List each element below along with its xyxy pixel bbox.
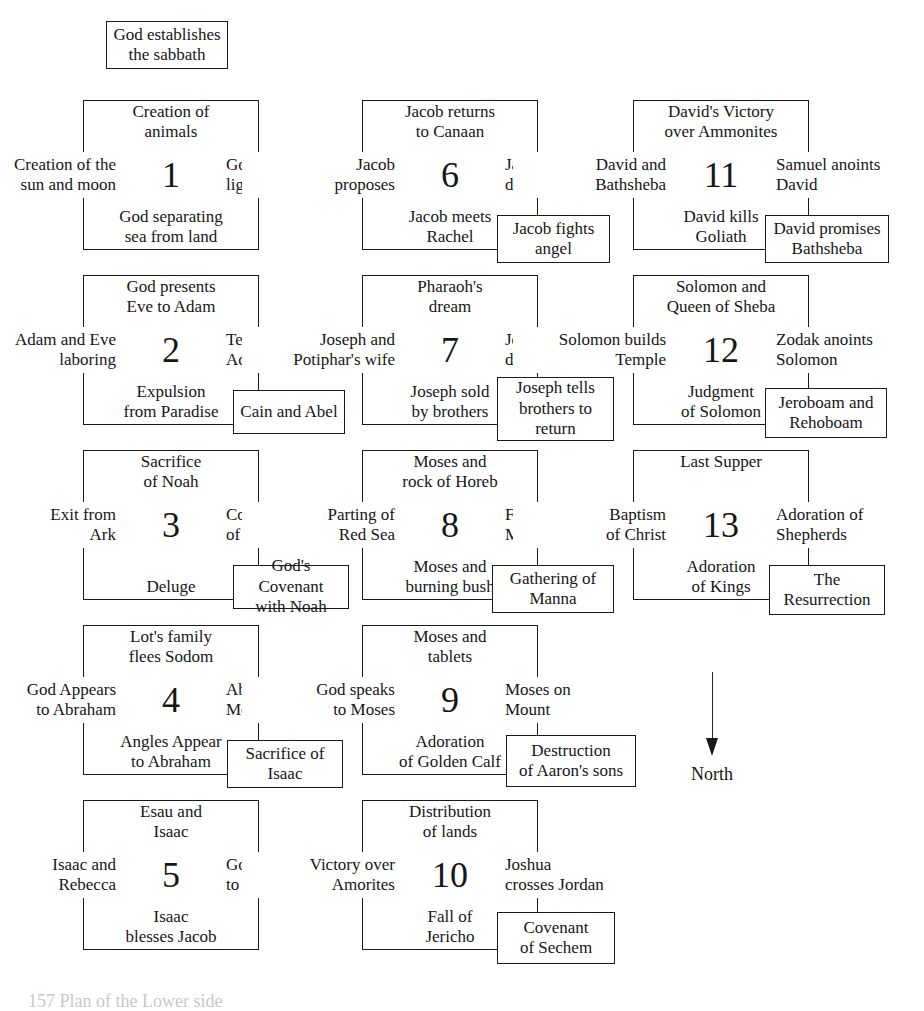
north-label: North xyxy=(691,764,733,785)
panel-border-top xyxy=(362,275,538,276)
panel-5[interactable]: Esau andIsaacIsaacblesses JacobIsaac and… xyxy=(83,800,259,950)
panel-border-r-upper xyxy=(537,100,538,152)
panel-11-east-label: Samuel anointsDavid xyxy=(773,153,924,197)
panel-3-subbox[interactable]: God's Covenantwith Noah xyxy=(233,565,349,609)
panel-border-r-upper xyxy=(808,275,809,327)
panel-13-east-label: Adoration ofShepherds xyxy=(773,503,924,547)
panel-border-l-upper xyxy=(83,800,84,852)
panel-3-west-label: Exit fromArk xyxy=(0,503,119,547)
north-arrow-shaft-icon xyxy=(712,672,713,744)
panel-border-l-upper xyxy=(362,450,363,502)
panel-3-south-label: Deluge xyxy=(87,577,255,597)
panel-border-l-upper xyxy=(362,800,363,852)
panel-border-l-lower xyxy=(83,548,84,600)
panel-border-top xyxy=(83,275,259,276)
panel-13-west-label: Baptismof Christ xyxy=(513,503,669,547)
panel-border-top xyxy=(83,625,259,626)
panel-border-top xyxy=(633,100,809,101)
panel-border-l-lower xyxy=(83,723,84,775)
panel-2-north-label: God presentsEve to Adam xyxy=(87,277,255,317)
panel-border-l-upper xyxy=(83,625,84,677)
panel-border-l-upper xyxy=(633,450,634,502)
panel-border-l-upper xyxy=(83,275,84,327)
panel-1-west-label: Creation of thesun and moon xyxy=(0,153,119,197)
panel-border-l-lower xyxy=(362,723,363,775)
panel-6-west-label: Jacobproposes xyxy=(242,153,398,197)
figure-caption: 157 Plan of the Lower side xyxy=(28,991,222,1011)
panel-border-r-upper xyxy=(537,625,538,677)
panel-12-north-label: Solomon andQueen of Sheba xyxy=(637,277,805,317)
panel-border-l-lower xyxy=(633,198,634,250)
panel-3-north-label: Sacrificeof Noah xyxy=(87,452,255,492)
panel-border-bottom xyxy=(83,949,259,950)
panel-2-south-label: Expulsionfrom Paradise xyxy=(87,382,255,422)
panel-border-top xyxy=(362,625,538,626)
panel-6-north-label: Jacob returnsto Canaan xyxy=(366,102,534,142)
panel-7-north-label: Pharaoh'sdream xyxy=(366,277,534,317)
panel-border-top xyxy=(633,450,809,451)
panel-8-subbox[interactable]: Gathering ofManna xyxy=(492,565,614,613)
panel-1-south-label: God separatingsea from land xyxy=(87,207,255,247)
panel-border-r-upper xyxy=(808,100,809,152)
panel-9-west-label: God speaksto Moses xyxy=(242,678,398,722)
panel-border-l-lower xyxy=(83,898,84,950)
panel-border-l-lower xyxy=(83,198,84,250)
panel-7-subbox[interactable]: Joseph tellsbrothers toreturn xyxy=(497,377,614,441)
panel-border-r-upper xyxy=(537,800,538,852)
panel-border-top xyxy=(633,275,809,276)
panel-border-l-lower xyxy=(362,373,363,425)
panel-border-r-upper xyxy=(258,625,259,677)
panel-2-subbox[interactable]: Cain and Abel xyxy=(233,390,345,434)
panel-12-east-label: Zodak anointsSolomon xyxy=(773,328,924,372)
panel-5-south-label: Isaacblesses Jacob xyxy=(87,907,255,947)
panel-11-north-label: David's Victoryover Ammonites xyxy=(637,102,805,142)
panel-13-subbox[interactable]: TheResurrection xyxy=(769,565,885,615)
panel-border-r-upper xyxy=(258,450,259,502)
panel-8-west-label: Parting ofRed Sea xyxy=(242,503,398,547)
panel-border-top xyxy=(362,800,538,801)
panel-border-top xyxy=(362,450,538,451)
panel-border-top xyxy=(362,100,538,101)
panel-border-l-lower xyxy=(362,198,363,250)
panel-11-subbox[interactable]: David promisesBathsheba xyxy=(765,215,889,263)
panel-4-north-label: Lot's familyflees Sodom xyxy=(87,627,255,667)
panel-border-top xyxy=(83,800,259,801)
panel-border-top xyxy=(83,450,259,451)
panel-border-r-upper xyxy=(808,450,809,502)
panel-8-north-label: Moses androck of Horeb xyxy=(366,452,534,492)
panel-9-subbox[interactable]: Destructionof Aaron's sons xyxy=(506,735,636,787)
panel-5-west-label: Isaac andRebecca xyxy=(0,853,119,897)
panel-9-east-label: Moses onMount xyxy=(502,678,660,722)
north-arrow: North xyxy=(672,672,752,802)
panel-11-west-label: David andBathsheba xyxy=(513,153,669,197)
panel-border-top xyxy=(83,100,259,101)
panel-border-r-upper xyxy=(258,100,259,152)
panel-border-l-lower xyxy=(633,373,634,425)
panel-border-l-upper xyxy=(633,100,634,152)
panel-6-subbox[interactable]: Jacob fightsangel xyxy=(497,215,610,263)
panel-border-r-lower xyxy=(258,898,259,950)
panel-2-west-label: Adam and Evelaboring xyxy=(0,328,119,372)
panel-border-l-lower xyxy=(633,548,634,600)
panel-border-l-lower xyxy=(83,373,84,425)
panel-border-r-upper xyxy=(537,275,538,327)
panel-border-l-upper xyxy=(83,100,84,152)
panel-border-l-upper xyxy=(362,275,363,327)
panel-border-bottom xyxy=(83,249,259,250)
panel-border-l-lower xyxy=(362,898,363,950)
panel-12-west-label: Solomon buildsTemple xyxy=(513,328,669,372)
panel-4-west-label: God Appearsto Abraham xyxy=(0,678,119,722)
panel-10-subbox[interactable]: Covenantof Sechem xyxy=(497,912,615,964)
panel-12-subbox[interactable]: Jeroboam andRehoboam xyxy=(765,388,887,438)
north-arrow-head-icon xyxy=(706,738,718,756)
panel-1[interactable]: Creation ofanimalsGod separatingsea from… xyxy=(83,100,259,250)
panel-border-l-upper xyxy=(633,275,634,327)
panel-border-l-lower xyxy=(362,548,363,600)
panel-4-subbox[interactable]: Sacrifice ofIsaac xyxy=(227,740,343,788)
panel-10-east-label: Joshuacrosses Jordan xyxy=(502,853,660,897)
panel-border-r-lower xyxy=(258,198,259,250)
panel-border-l-upper xyxy=(362,100,363,152)
panel-1-north-label: Creation ofanimals xyxy=(87,102,255,142)
panel-border-l-upper xyxy=(83,450,84,502)
